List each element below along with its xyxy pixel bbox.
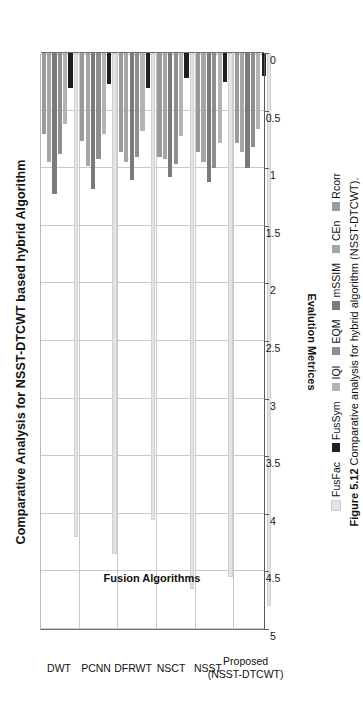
bar-cen-proposednsstdtcwt [240,53,244,152]
tick-0 [264,53,269,54]
bar-eqm-nsst [212,53,216,168]
legend-item-cen[interactable]: CEn [330,221,342,253]
figure-caption: Figure 5.12 Comparative analysis for hyb… [348,0,360,704]
legend-label-eqm: EQM [330,320,342,344]
bar-fusfac-nsct [190,53,194,589]
bar-mssim-proposednsstdtcwt [245,53,249,168]
tick-5 [264,629,269,630]
bar-iqi-dwt [63,53,67,124]
bar-fussym-dfrwt [146,53,150,88]
bar-group [196,55,235,629]
tick-label-4: 4 [270,515,276,527]
legend-item-rcorr[interactable]: Rcorr [330,173,342,211]
legend-item-mssim[interactable]: mSSIM [330,263,342,309]
tick-label-0.5: 0.5 [266,112,281,124]
rotated-figure-wrapper: Comparative Analysis for NSST-DTCWT base… [0,0,363,704]
figure: Comparative Analysis for NSST-DTCWT base… [0,0,363,704]
bar-groups [41,55,264,629]
legend-swatch-fussym [332,443,341,452]
bar-cen-nsct [163,53,167,159]
legend-label-fusfac: FusFac [330,462,342,497]
bar-rcorr-nsst [196,53,200,152]
tick-label-3: 3 [270,400,276,412]
legend-swatch-iqi [332,383,341,392]
bar-iqi-nsct [179,53,183,136]
tick-label-0: 0 [270,54,276,66]
bar-mssim-pcnn [91,53,95,189]
bar-cen-dwt [47,53,51,162]
tick-4 [264,514,269,515]
legend-label-cen: CEn [330,221,342,241]
legend-item-fussym[interactable]: FusSym [330,401,342,452]
bar-eqm-dwt [58,53,62,154]
category-label-nsct: NSCT [152,632,189,704]
bar-iqi-pcnn [102,53,106,134]
bar-iqi-dfrwt [140,53,144,131]
bar-cen-pcnn [86,53,90,166]
tick-label-2.5: 2.5 [266,342,281,354]
tick-label-3.5: 3.5 [266,457,281,469]
bar-rcorr-nsct [157,53,161,157]
tick-label-4.5: 4.5 [266,572,281,584]
plot-area [40,54,264,630]
category-axis-title: Fusion Algorithms [40,566,264,590]
bar-rcorr-dwt [42,53,46,134]
legend-item-fusfac[interactable]: FusFac [330,462,342,511]
chart-title: Comparative Analysis for NSST-DTCWT base… [14,0,28,704]
category-axis-labels: DWTPCNNDFRWTNSCTNSSTProposed(NSST-DTCWT) [40,632,264,704]
bar-rcorr-dfrwt [119,53,123,152]
bar-eqm-proposednsstdtcwt [251,53,255,147]
bar-rcorr-proposednsstdtcwt [235,53,239,143]
bar-mssim-dwt [52,53,56,194]
legend-label-iqi: IQI [330,365,342,379]
bar-fusfac-nsst [228,53,232,577]
bar-fusfac-dfrwt [151,53,155,520]
bar-fussym-dwt [68,53,72,88]
bar-fussym-nsct [184,53,188,78]
legend-label-fussym: FusSym [330,401,342,440]
caption-text: Comparative analysis for hybrid algorith… [348,177,360,465]
bar-group [157,55,196,629]
bar-cen-nsst [201,53,205,162]
bar-cen-dfrwt [124,53,128,162]
bar-mssim-dfrwt [130,53,134,180]
legend-swatch-eqm [332,347,341,356]
category-label-dwt: DWT [40,632,77,704]
legend-label-mssim: mSSIM [330,263,342,297]
bar-group [80,55,119,629]
legend-item-iqi[interactable]: IQI [330,365,342,391]
bar-fussym-pcnn [107,53,111,84]
category-label-pcnn: PCNN [77,632,114,704]
category-label-dfrwt: DFRWT [115,632,152,704]
tick-label-1: 1 [270,169,276,181]
legend-item-eqm[interactable]: EQM [330,320,342,356]
tick-3 [264,399,269,400]
category-label-proposednsstdtcwt: Proposed(NSST-DTCWT) [227,632,264,704]
legend-label-rcorr: Rcorr [330,173,342,199]
tick-label-1.5: 1.5 [266,227,281,239]
bar-rcorr-pcnn [80,53,84,141]
caption-number: Figure 5.12 [348,468,360,526]
bar-eqm-pcnn [96,53,100,159]
tick-label-5: 5 [270,630,276,642]
bar-fusfac-pcnn [112,53,116,554]
tick-label-2: 2 [270,284,276,296]
bar-iqi-proposednsstdtcwt [256,53,260,129]
legend: FusFacFusSymIQIEQMmSSIMCEnRcorr [330,54,342,630]
bar-fussym-nsst [223,53,227,82]
bar-iqi-nsst [218,53,222,143]
bar-mssim-nsct [168,53,172,177]
bar-eqm-nsct [174,53,178,164]
bar-eqm-dfrwt [135,53,139,157]
tick-2 [264,283,269,284]
bar-group [41,55,80,629]
bar-group [118,55,157,629]
legend-swatch-cen [332,245,341,254]
tick-1 [264,168,269,169]
bar-fusfac-dwt [74,53,78,537]
bar-mssim-nsst [207,53,211,182]
legend-swatch-mssim [332,301,341,310]
legend-swatch-rcorr [332,202,341,211]
legend-swatch-fusfac [331,501,342,512]
value-axis-ticks: 00.511.522.533.544.55 [264,54,298,630]
